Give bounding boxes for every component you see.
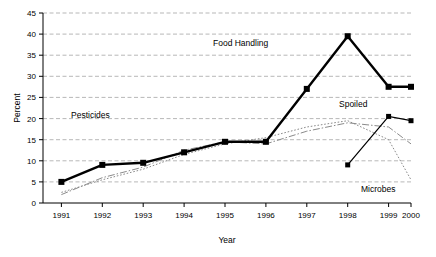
x-tick-label: 1996 — [257, 211, 275, 220]
y-tick-label: 10 — [27, 157, 36, 166]
chart-container: 0 5 10 15 20 25 30 35 40 45 1991 1992 19… — [0, 0, 436, 257]
y-tick-label: 0 — [32, 199, 37, 208]
annotation-microbes: Microbes — [361, 184, 395, 194]
x-tick-label: 1994 — [175, 211, 193, 220]
y-tick-labels: 0 5 10 15 20 25 30 35 40 45 — [27, 9, 36, 208]
y-axis-title: Percent — [12, 93, 22, 123]
y-tick-label: 20 — [27, 115, 36, 124]
x-axis-title: Year — [218, 235, 235, 245]
x-tick-label: 2000 — [402, 211, 420, 220]
y-tick-label: 25 — [27, 93, 36, 102]
annotation-pesticides: Pesticides — [71, 110, 110, 120]
x-tick-label: 1993 — [134, 211, 152, 220]
x-tick-label: 1999 — [380, 211, 398, 220]
annotation-spoiled: Spoiled — [339, 99, 368, 109]
y-tick-label: 35 — [27, 51, 36, 60]
x-tick-label: 1997 — [298, 211, 316, 220]
y-tick-marks — [39, 13, 43, 203]
x-tick-label: 1998 — [339, 211, 357, 220]
y-tick-label: 15 — [27, 136, 36, 145]
y-tick-label: 30 — [27, 72, 36, 81]
x-tick-label: 1995 — [216, 211, 234, 220]
annotation-food-handling: Food Handling — [213, 38, 269, 48]
y-tick-label: 40 — [27, 30, 36, 39]
line-chart: 0 5 10 15 20 25 30 35 40 45 1991 1992 19… — [0, 0, 436, 257]
x-tick-labels: 1991 1992 1993 1994 1995 1996 1997 1998 … — [53, 211, 421, 220]
y-tick-label: 45 — [27, 9, 36, 18]
y-tick-label: 5 — [32, 178, 37, 187]
x-tick-marks — [61, 203, 411, 207]
x-tick-label: 1991 — [53, 211, 71, 220]
x-tick-label: 1992 — [93, 211, 111, 220]
